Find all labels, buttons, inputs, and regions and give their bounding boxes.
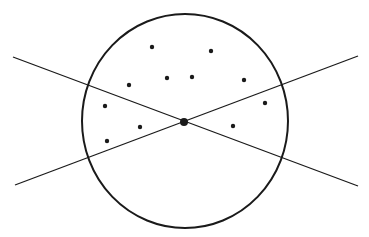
data-point (103, 104, 107, 108)
data-point (127, 83, 131, 87)
data-point (165, 76, 169, 80)
center-point (180, 118, 188, 126)
data-point (138, 125, 142, 129)
data-point (242, 78, 246, 82)
data-point (190, 75, 194, 79)
data-point (263, 101, 267, 105)
data-point (105, 139, 109, 143)
data-point (209, 49, 213, 53)
scatter-points (103, 45, 267, 143)
data-point (231, 124, 235, 128)
data-point (150, 45, 154, 49)
diagram-canvas (0, 0, 369, 237)
